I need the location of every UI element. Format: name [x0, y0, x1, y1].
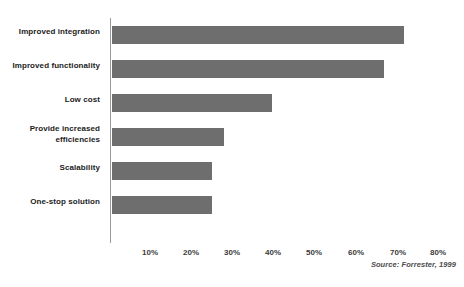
- category-label-2: Low cost: [0, 95, 100, 106]
- x-tick-label-60: 60%: [336, 248, 376, 257]
- chart-row: Provide increased efficiencies: [0, 124, 464, 158]
- bar-chart: Improved integration Improved functional…: [0, 0, 464, 287]
- category-label-line1: Improved functionality: [12, 61, 100, 70]
- x-tick-label-20: 20%: [171, 248, 211, 257]
- category-label-3: Provide increased efficiencies: [0, 124, 100, 145]
- x-tick-label-10: 10%: [130, 248, 170, 257]
- bar-improved-integration: [112, 26, 404, 44]
- chart-row: Improved integration: [0, 22, 464, 56]
- bar-provide-increased-efficiencies: [112, 128, 224, 146]
- category-label-line1: Scalability: [60, 163, 100, 172]
- bar-low-cost: [112, 94, 272, 112]
- chart-row: Low cost: [0, 90, 464, 124]
- chart-row: Improved functionality: [0, 56, 464, 90]
- category-label-4: Scalability: [0, 163, 100, 174]
- x-tick-label-70: 70%: [378, 248, 418, 257]
- category-label-line1: Low cost: [65, 95, 100, 104]
- category-label-line2: efficiencies: [0, 135, 100, 146]
- x-tick-label-80: 80%: [418, 248, 458, 257]
- chart-row: One-stop solution: [0, 192, 464, 226]
- category-label-1: Improved functionality: [0, 61, 100, 72]
- source-note: Source: Forrester, 1999: [371, 260, 456, 269]
- chart-row: Scalability: [0, 158, 464, 192]
- x-tick-label-50: 50%: [294, 248, 334, 257]
- category-label-5: One-stop solution: [0, 197, 100, 208]
- category-label-line1: Provide increased: [0, 124, 100, 135]
- bar-one-stop-solution: [112, 196, 212, 214]
- bar-improved-functionality: [112, 60, 384, 78]
- category-label-line1: One-stop solution: [30, 197, 100, 206]
- x-tick-label-40: 40%: [253, 248, 293, 257]
- x-tick-label-30: 30%: [212, 248, 252, 257]
- bar-scalability: [112, 162, 212, 180]
- category-label-0: Improved integration: [0, 27, 100, 38]
- category-label-line1: Improved integration: [19, 27, 100, 36]
